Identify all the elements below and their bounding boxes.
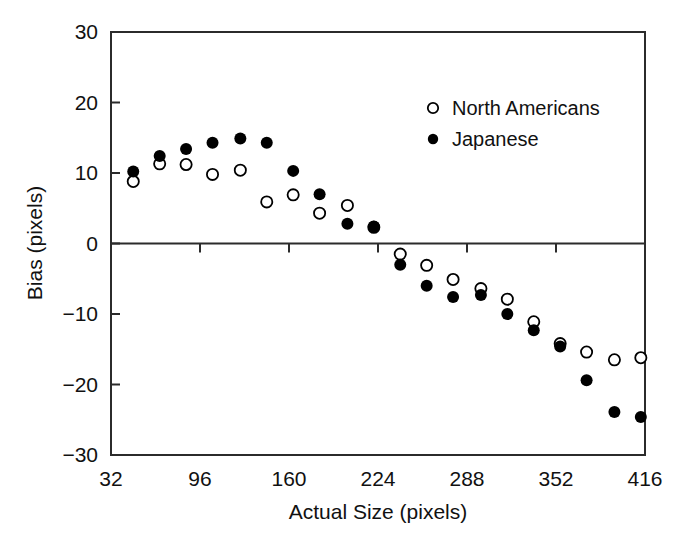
data-point — [608, 406, 620, 418]
data-point — [368, 221, 380, 233]
data-point — [180, 143, 192, 155]
y-tick-label: 20 — [75, 91, 98, 114]
y-axis-title: Bias (pixels) — [23, 186, 46, 300]
data-point — [447, 274, 458, 285]
y-tick-label: 30 — [75, 20, 98, 43]
series-japanese-points — [127, 132, 647, 422]
data-point — [502, 294, 513, 305]
data-point — [261, 196, 272, 207]
series-north-americans-points — [128, 158, 647, 365]
x-tick-label: 32 — [99, 467, 122, 490]
x-tick-label: 352 — [538, 467, 573, 490]
data-point — [314, 188, 326, 200]
data-point — [207, 137, 219, 149]
x-tick-label: 160 — [271, 467, 306, 490]
data-point — [501, 308, 513, 320]
chart-legend: North Americans Japanese — [428, 97, 600, 150]
y-tick-label: −20 — [62, 373, 98, 396]
data-point — [421, 260, 432, 271]
scatter-chart-figure: 3020100−10−20−30 3296160224288352416 Nor… — [0, 0, 680, 543]
x-axis-title: Actual Size (pixels) — [289, 500, 468, 523]
data-point — [475, 289, 487, 301]
x-tick-label: 288 — [449, 467, 484, 490]
data-point — [635, 352, 646, 363]
x-axis-tick-labels: 3296160224288352416 — [99, 467, 662, 490]
data-point — [235, 165, 246, 176]
y-axis-tick-labels: 3020100−10−20−30 — [62, 20, 98, 466]
data-point — [261, 137, 273, 149]
legend-marker-filled-circle-icon — [428, 134, 438, 144]
data-point — [314, 208, 325, 219]
data-point — [421, 280, 433, 292]
y-axis-ticks — [111, 32, 120, 455]
data-point — [287, 165, 299, 177]
data-point — [635, 411, 647, 423]
data-point — [341, 218, 353, 230]
y-tick-label: −10 — [62, 302, 98, 325]
y-tick-label: 0 — [86, 232, 98, 255]
data-point — [528, 324, 540, 336]
chart-canvas: 3020100−10−20−30 3296160224288352416 Nor… — [0, 0, 680, 543]
data-point — [207, 169, 218, 180]
data-point — [581, 346, 592, 357]
legend-label-japanese: Japanese — [452, 128, 539, 150]
x-axis-ticks — [200, 244, 556, 253]
data-point — [180, 159, 191, 170]
x-tick-label: 96 — [188, 467, 211, 490]
data-point — [127, 166, 139, 178]
legend-marker-open-circle-icon — [428, 103, 438, 113]
data-point — [554, 340, 566, 352]
data-point — [288, 189, 299, 200]
y-tick-label: −30 — [62, 443, 98, 466]
data-point — [342, 200, 353, 211]
legend-label-north-americans: North Americans — [452, 97, 600, 119]
data-point — [609, 354, 620, 365]
data-point — [234, 132, 246, 144]
data-point — [394, 259, 406, 271]
data-point — [395, 248, 406, 259]
y-tick-label: 10 — [75, 161, 98, 184]
x-tick-label: 224 — [360, 467, 395, 490]
data-point — [581, 374, 593, 386]
data-point — [154, 150, 166, 162]
x-tick-label: 416 — [627, 467, 662, 490]
data-point — [447, 291, 459, 303]
